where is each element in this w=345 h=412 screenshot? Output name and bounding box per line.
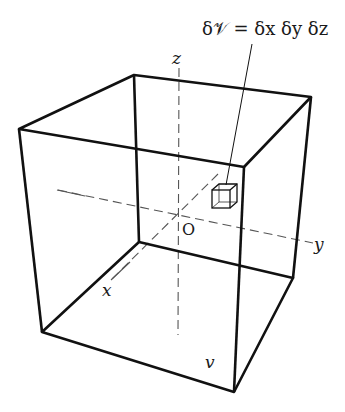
equation-label: δ𝒱 = δx δy δz: [202, 20, 328, 38]
y-axis-line-solid-start: [57, 190, 85, 196]
cube-bottom-face: [42, 242, 293, 392]
z-axis-line: [178, 68, 179, 335]
z-axis-label: z: [172, 50, 181, 67]
cube-top-face: [19, 75, 311, 167]
region-label: v: [205, 354, 215, 371]
x-axis-label: x: [102, 282, 112, 299]
cube-edge-front-left: [19, 129, 42, 332]
origin-label: O: [182, 222, 195, 238]
y-axis-label: y: [314, 236, 324, 253]
cube-edge-back-right: [293, 97, 311, 278]
axes: [57, 68, 313, 335]
cube-edge-front-right: [234, 167, 244, 392]
cube-edge-back-left: [134, 75, 139, 242]
volume-element-box: [212, 44, 252, 208]
